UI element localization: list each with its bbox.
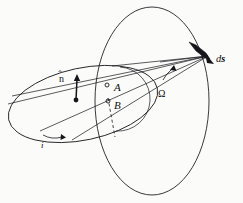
figure-canvas	[0, 0, 243, 203]
inclination-arc-arrowhead	[61, 134, 67, 140]
inclination-label: i	[41, 141, 44, 150]
ascending-node-angle-arc	[163, 69, 172, 80]
node-a-marker	[105, 83, 109, 87]
normal-vector-letter: n	[59, 73, 64, 84]
orbital-plane-ellipse	[1, 53, 165, 155]
reference-plane-ellipse	[95, 7, 209, 195]
node-a-label: A	[114, 82, 121, 93]
orbital-geometry-figure: n ̂ A B i Ω ds	[0, 0, 243, 203]
ascending-node-label: Ω	[158, 89, 165, 99]
sight-line-low	[72, 56, 208, 140]
ascending-node-arc-arrowhead	[170, 65, 177, 71]
normal-vector-label: n ̂	[59, 74, 64, 84]
surface-element-label: ds	[216, 54, 225, 65]
sight-line-top	[12, 56, 208, 96]
sight-line-upper	[8, 56, 208, 104]
node-b-label: B	[114, 100, 121, 111]
surface-element-s: s	[221, 53, 225, 64]
inclination-angle-arc	[43, 135, 62, 138]
